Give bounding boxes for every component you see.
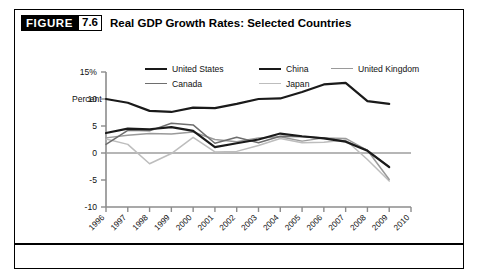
y-tick-label: -5 <box>89 175 97 185</box>
x-tick-label: 1999 <box>153 213 173 233</box>
legend-swatch-icon <box>259 68 281 70</box>
y-tick-label: 5 <box>92 121 97 131</box>
legend-label: Canada <box>172 79 202 89</box>
x-tick-label: 1998 <box>131 213 151 233</box>
x-tick-label: 1997 <box>109 213 129 233</box>
legend-label: China <box>286 64 308 74</box>
figure-number: 7.6 <box>78 15 102 31</box>
figure-source-strip <box>15 245 463 268</box>
x-tick-label: 2010 <box>392 213 412 233</box>
y-tick-label: 0 <box>92 148 97 158</box>
x-tick-label: 2003 <box>240 213 260 233</box>
x-tick-label: 2001 <box>196 213 216 233</box>
legend-swatch-icon <box>145 68 167 70</box>
x-tick-label: 2000 <box>174 213 194 233</box>
x-tick-label: 2008 <box>349 213 369 233</box>
legend-item-united-kingdom: United Kingdom <box>331 62 419 75</box>
figure-badge: FIGURE <box>21 15 78 31</box>
legend-label: United Kingdom <box>358 64 419 74</box>
figure-title: Real GDP Growth Rates: Selected Countrie… <box>110 15 351 31</box>
y-tick-label: -10 <box>85 202 98 212</box>
legend-item-united-states: United States <box>145 62 224 75</box>
legend-item-china: China <box>259 62 308 75</box>
legend-label: United States <box>172 64 224 74</box>
chart-area: Percent Year United StatesChinaUnited Ki… <box>15 36 463 242</box>
y-tick-label: 15% <box>80 67 98 77</box>
figure-root: FIGURE 7.6 Real GDP Growth Rates: Select… <box>0 0 481 280</box>
x-tick-label: 2006 <box>305 213 325 233</box>
x-tick-label: 2005 <box>283 213 303 233</box>
y-axis-label: Percent <box>72 94 102 104</box>
legend-item-canada: Canada <box>145 77 202 90</box>
x-tick-label: 1996 <box>87 213 107 233</box>
legend-swatch-icon <box>331 68 353 69</box>
legend-swatch-icon <box>259 83 281 84</box>
legend-item-japan: Japan <box>259 77 309 90</box>
series-line-japan <box>106 137 389 181</box>
series-line-united-kingdom <box>106 132 389 180</box>
x-tick-label: 2002 <box>218 213 238 233</box>
x-tick-label: 2004 <box>261 213 281 233</box>
x-tick-label: 2007 <box>327 213 347 233</box>
legend-swatch-icon <box>145 83 167 84</box>
x-tick-label: 2009 <box>370 213 390 233</box>
chart-legend: United StatesChinaUnited KingdomCanadaJa… <box>131 62 451 90</box>
figure-header: FIGURE 7.6 Real GDP Growth Rates: Select… <box>15 10 463 36</box>
figure-frame: FIGURE 7.6 Real GDP Growth Rates: Select… <box>14 9 464 269</box>
legend-label: Japan <box>286 79 309 89</box>
